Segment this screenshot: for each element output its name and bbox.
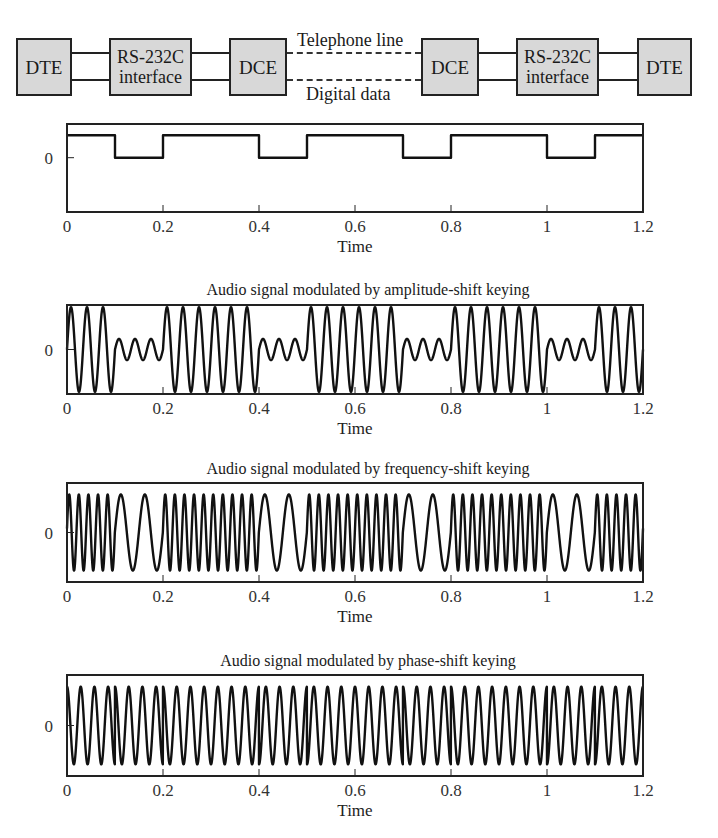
x-tick-label: 0.2 — [152, 781, 173, 800]
psk-waveform — [67, 687, 643, 765]
x-tick-label: 1.2 — [632, 781, 653, 800]
x-tick-label: 0 — [63, 781, 72, 800]
y-tick-label: 0 — [45, 717, 54, 736]
psk-plot: 00.20.40.60.811.20Time — [0, 0, 718, 838]
x-tick-label: 1 — [543, 781, 552, 800]
x-tick-label: 0.4 — [248, 781, 270, 800]
x-tick-label: 0.8 — [440, 781, 461, 800]
x-axis-label: Time — [337, 801, 372, 820]
x-tick-label: 0.6 — [344, 781, 365, 800]
